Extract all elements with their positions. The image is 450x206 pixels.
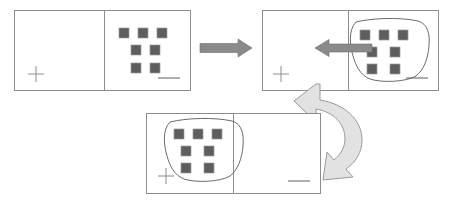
step-3-group — [147, 114, 321, 194]
shape-square[interactable] — [193, 129, 203, 139]
sequence-diagram-canvas — [0, 0, 450, 206]
right-arrow-icon — [200, 39, 252, 57]
shape-square[interactable] — [390, 47, 400, 57]
shape-square[interactable] — [119, 28, 129, 38]
shape-square[interactable] — [131, 45, 141, 55]
shape-square[interactable] — [150, 45, 160, 55]
shape-square[interactable] — [390, 64, 400, 74]
shape-square[interactable] — [174, 129, 184, 139]
shape-square[interactable] — [367, 64, 377, 74]
shape-square[interactable] — [398, 30, 408, 40]
shape-square[interactable] — [212, 129, 222, 139]
step-1-group — [15, 11, 191, 91]
shape-square[interactable] — [204, 163, 214, 173]
shape-square[interactable] — [181, 146, 191, 156]
shape-square[interactable] — [131, 63, 141, 73]
shape-square[interactable] — [360, 30, 370, 40]
shape-square[interactable] — [379, 30, 389, 40]
shape-square[interactable] — [150, 63, 160, 73]
shape-square[interactable] — [204, 146, 214, 156]
shape-square[interactable] — [138, 28, 148, 38]
diagram-root — [0, 0, 450, 206]
shape-square[interactable] — [181, 163, 191, 173]
shape-square[interactable] — [157, 28, 167, 38]
step-2-group — [263, 11, 439, 91]
